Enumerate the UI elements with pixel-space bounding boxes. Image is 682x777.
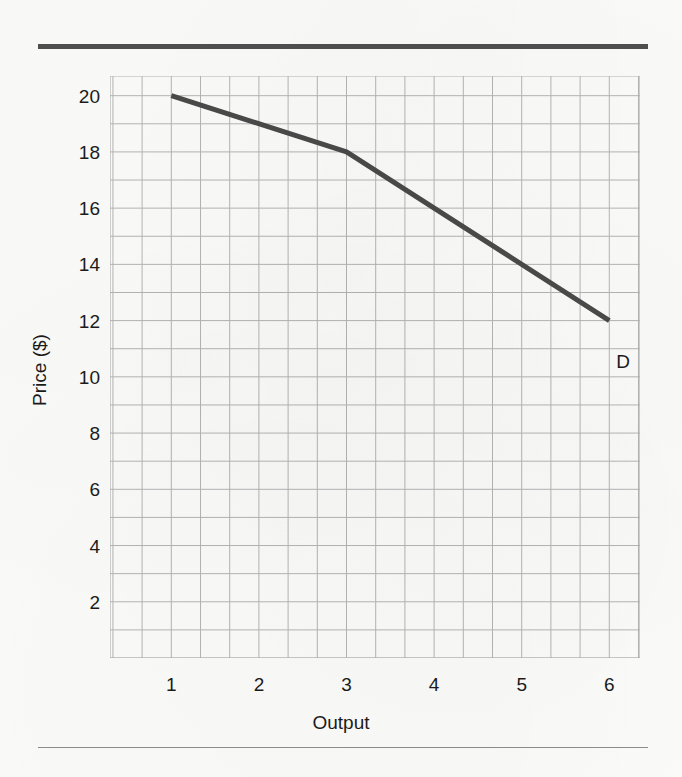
curve-label-d: D: [616, 352, 630, 371]
y-tick-label: 10: [54, 368, 100, 387]
y-tick-label: 4: [54, 537, 100, 556]
y-tick-label: 16: [54, 199, 100, 218]
top-rule: [38, 44, 648, 49]
grid-frame: [110, 76, 640, 658]
plot-area: [110, 76, 640, 658]
y-tick-label: 20: [54, 87, 100, 106]
x-tick-label: 2: [239, 675, 279, 694]
x-tick-label: 1: [151, 675, 191, 694]
y-tick-label: 8: [54, 424, 100, 443]
x-tick-label: 3: [327, 675, 367, 694]
x-axis-tick-labels: 123456: [0, 675, 682, 705]
x-tick-label: 5: [502, 675, 542, 694]
y-tick-label: 12: [54, 312, 100, 331]
grid-and-curve-canvas: [110, 76, 640, 658]
bottom-rule: [38, 747, 648, 748]
x-axis-title: Output: [0, 712, 682, 734]
y-tick-label: 14: [54, 255, 100, 274]
figure-page: 2468101214161820 123456 Output Price ($)…: [0, 0, 682, 777]
grid-minor-lines: [110, 76, 640, 658]
y-axis-title: Price ($): [29, 270, 51, 470]
y-tick-label: 6: [54, 480, 100, 499]
y-axis-tick-labels: 2468101214161820: [48, 0, 100, 777]
x-tick-label: 6: [589, 675, 629, 694]
x-tick-label: 4: [414, 675, 454, 694]
y-tick-label: 18: [54, 143, 100, 162]
y-tick-label: 2: [54, 593, 100, 612]
